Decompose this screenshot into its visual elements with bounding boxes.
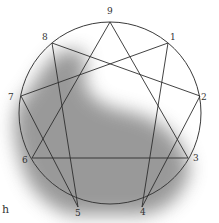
point-label-4: 4 (140, 207, 146, 217)
point-label-2: 2 (201, 92, 207, 102)
point-label-1: 1 (170, 32, 176, 42)
point-label-6: 6 (22, 155, 28, 165)
point-label-7: 7 (8, 92, 14, 102)
stray-text: h (2, 203, 9, 216)
point-label-8: 8 (42, 32, 48, 42)
shadow-area (14, 50, 190, 215)
point-label-3: 3 (193, 153, 199, 163)
enneagram-diagram: 912345678 h (0, 0, 219, 223)
point-label-5: 5 (75, 208, 81, 218)
enneagram-svg (0, 0, 219, 223)
point-label-9: 9 (107, 6, 113, 16)
